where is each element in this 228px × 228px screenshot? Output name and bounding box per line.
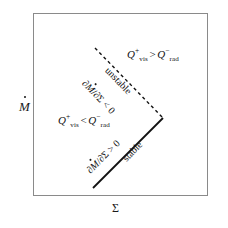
q-vis-superscript-lower: + [66,112,70,121]
q-vis-subscript-upper: vis [139,55,148,63]
q-rad-subscript-lower: rad [101,121,110,129]
relation-operator-lower: < [79,114,88,126]
q-vis-subscript-lower: vis [70,121,79,129]
region-label-lower: Q+vis<Q−rad [58,114,110,126]
branch-lines [0,0,228,228]
region-label-upper: Q+vis>Q−rad [127,48,179,60]
mdot-symbol: M [19,99,30,115]
relation-operator-upper: > [148,48,157,60]
x-axis-label: Σ [112,201,119,216]
q-vis-symbol-upper: Q [127,48,135,60]
q-vis-symbol-lower: Q [58,114,66,126]
q-rad-subscript-upper: rad [170,55,179,63]
y-axis-label: M [19,99,30,115]
s-curve-figure: M Σ Q+vis>Q−rad Q+vis<Q−rad unstable ∂M/… [0,0,228,228]
q-rad-superscript-upper: − [165,46,169,55]
q-vis-superscript-upper: + [135,46,139,55]
q-rad-superscript-lower: − [96,112,100,121]
